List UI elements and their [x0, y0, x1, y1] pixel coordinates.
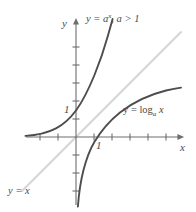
exponential-curve — [26, 19, 113, 136]
y-axis-tick-label-1: 1 — [64, 104, 70, 115]
log-label-suffix: x — [156, 104, 163, 115]
x-axis-label: x — [180, 142, 185, 153]
figure-container: y = ax, a > 1 y = loga x y = x y x 1 1 — [0, 0, 196, 212]
exponential-label-prefix: y = a — [86, 13, 108, 24]
log-label-prefix: y = log — [123, 104, 153, 115]
x-axis — [26, 134, 178, 141]
logarithmic-curve-label: y = loga x — [123, 105, 164, 116]
identity-line-label: y = x — [8, 186, 30, 197]
plot-canvas — [0, 0, 196, 212]
x-axis-tick-label-1: 1 — [96, 140, 102, 151]
y-axis-label: y — [62, 18, 67, 29]
exponential-label-suffix: , a > 1 — [111, 13, 139, 24]
exponential-curve-label: y = ax, a > 1 — [86, 14, 139, 25]
